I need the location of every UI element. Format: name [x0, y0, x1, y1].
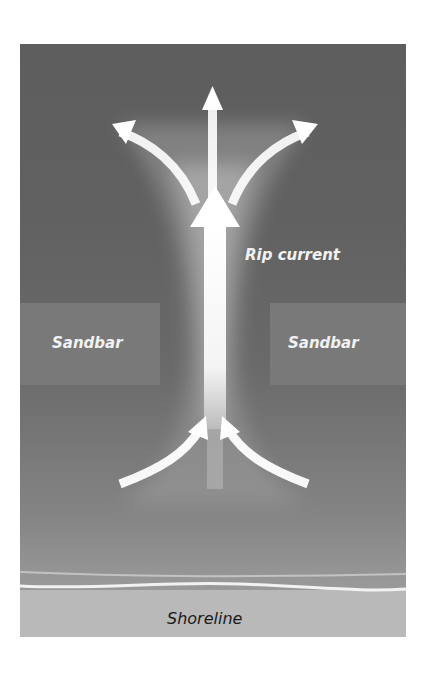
shoreline-label: Shoreline: [167, 609, 242, 628]
diagram-frame: Rip current Sandbar Sandbar Shoreline: [20, 44, 406, 637]
sandbar-left-label: Sandbar: [52, 334, 123, 352]
rip-current-label: Rip current: [245, 246, 340, 264]
sandbar-right-label: Sandbar: [288, 334, 359, 352]
